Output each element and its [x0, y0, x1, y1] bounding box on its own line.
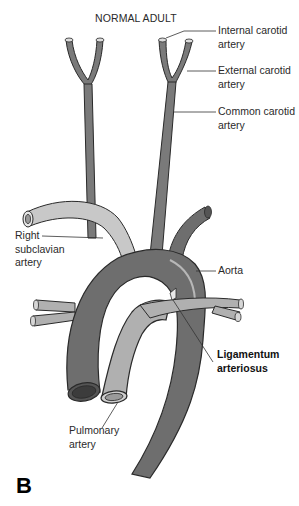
label-common-carotid-artery: Common carotid artery [218, 105, 295, 132]
figure-title: NORMAL ADULT [95, 12, 177, 24]
label-line: artery [218, 119, 295, 133]
label-internal-carotid-artery: Internal carotid artery [218, 24, 287, 51]
aortic-arch-diagram: NORMAL ADULT Internal carotid artery Ext… [0, 0, 299, 506]
label-aorta: Aorta [218, 264, 243, 278]
label-line: Internal carotid [218, 24, 287, 38]
label-ligamentum-arteriosus: Ligamentum arteriosus [217, 348, 279, 375]
label-external-carotid-artery: External carotid artery [218, 64, 291, 91]
label-line: artery [218, 78, 291, 92]
label-line: subclavian [15, 243, 65, 257]
label-line: Aorta [218, 264, 243, 278]
label-line: artery [15, 256, 65, 270]
label-line: External carotid [218, 64, 291, 78]
label-line: Right [15, 229, 65, 243]
label-right-subclavian-artery: Right subclavian artery [15, 229, 65, 270]
label-pulmonary-artery: Pulmonary artery [69, 424, 119, 451]
label-line: artery [218, 38, 287, 52]
label-line: artery [69, 438, 119, 452]
leader-internal-carotid [166, 31, 184, 38]
label-line: arteriosus [217, 362, 279, 376]
right-pulmonary-branches [31, 300, 77, 326]
panel-letter: B [16, 473, 32, 499]
label-line: Ligamentum [217, 348, 279, 362]
label-line: Common carotid [218, 105, 295, 119]
label-line: Pulmonary [69, 424, 119, 438]
